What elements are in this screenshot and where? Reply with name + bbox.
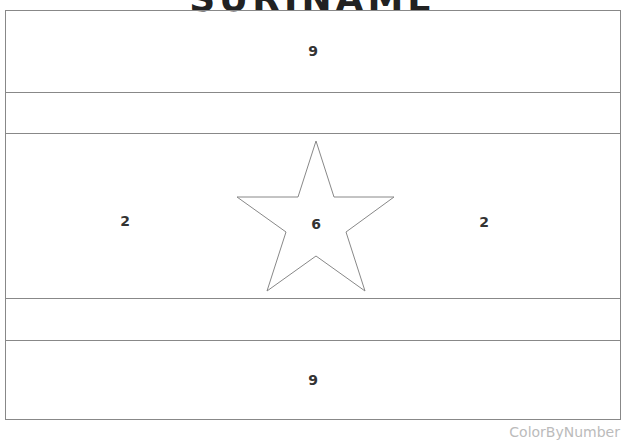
- region-bottom-band-number[interactable]: 9: [308, 372, 318, 388]
- region-left-number[interactable]: 2: [120, 213, 130, 229]
- footer-credit: ColorByNumber: [400, 424, 620, 440]
- region-top-band-number[interactable]: 9: [308, 43, 318, 59]
- region-star-number[interactable]: 6: [311, 216, 321, 232]
- flag-border: [6, 11, 621, 420]
- region-right-number[interactable]: 2: [479, 214, 489, 230]
